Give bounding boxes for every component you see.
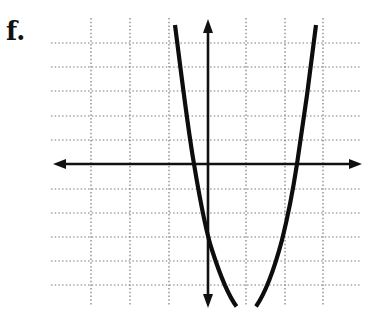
x-axis-left-arrow-icon bbox=[53, 159, 66, 169]
y-axis-down-arrow-icon bbox=[203, 294, 213, 308]
coordinate-graph bbox=[0, 0, 375, 331]
y-axis-up-arrow-icon bbox=[203, 19, 213, 33]
x-axis-right-arrow-icon bbox=[349, 159, 362, 169]
grid bbox=[51, 18, 360, 305]
